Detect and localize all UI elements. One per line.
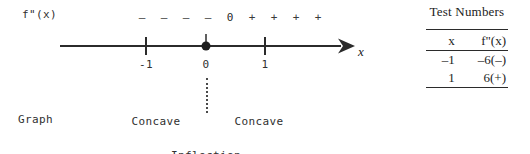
minus-sign: – — [197, 11, 219, 24]
tick-label-pos1: 1 — [245, 58, 285, 71]
table-row: 1 6(+) — [426, 69, 508, 88]
concavity-sign-chart-figure: f"(x) – – – – 0 + + + + -1 0 1 x — [0, 0, 530, 154]
test-numbers-table: x f"(x) –1 –6(–) 1 6(+) — [426, 29, 508, 88]
column-header-x: x — [426, 32, 457, 51]
column-header-fpp: f"(x) — [457, 32, 508, 51]
table-row: –1 –6(–) — [426, 51, 508, 70]
minus-sign: – — [153, 11, 175, 24]
second-derivative-label: f"(x) — [22, 8, 57, 21]
table-header-row: x f"(x) — [426, 32, 508, 51]
plus-sign: + — [307, 11, 329, 24]
axis-variable-label: x — [358, 44, 364, 60]
graph-of-f-caption: Graph of f — [18, 80, 53, 154]
sign-row: – – – – 0 + + + + — [131, 11, 341, 24]
plus-sign: + — [285, 11, 307, 24]
minus-sign: – — [175, 11, 197, 24]
test-x-value: 1 — [426, 69, 457, 88]
tick-label-neg1: -1 — [126, 58, 166, 71]
inflection-divider — [206, 78, 208, 113]
tick-label-zero: 0 — [186, 58, 226, 71]
plus-sign: + — [263, 11, 285, 24]
plus-sign: + — [241, 11, 263, 24]
inflection-point-dot — [202, 42, 211, 51]
graph-of-f-line1: Graph — [18, 112, 53, 128]
test-x-value: –1 — [426, 51, 457, 70]
test-f-value: –6(–) — [457, 51, 508, 70]
test-f-value: 6(+) — [457, 69, 508, 88]
inflection-point-caption: Inflection Point — [166, 116, 246, 154]
minus-sign: – — [131, 11, 153, 24]
test-numbers-title: Test Numbers — [414, 4, 520, 20]
test-numbers-panel: Test Numbers x f"(x) –1 –6(–) 1 — [414, 4, 520, 88]
inflection-point-line1: Inflection — [166, 148, 246, 154]
sign-row-zero: 0 — [219, 11, 241, 24]
